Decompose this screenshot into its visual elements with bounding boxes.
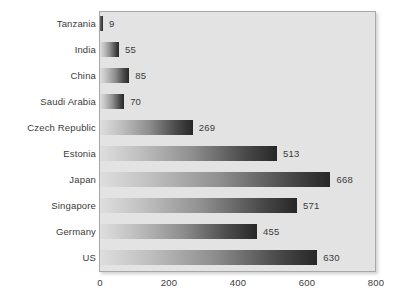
bar-chart: Tanzania9India55China85Saudi Arabia70Cze… bbox=[0, 0, 407, 301]
bar-india bbox=[100, 42, 119, 57]
x-tick-label-400: 400 bbox=[230, 277, 246, 288]
value-label-china: 85 bbox=[135, 63, 146, 89]
chart-row: India55 bbox=[0, 37, 407, 63]
value-label-japan: 668 bbox=[336, 167, 352, 193]
category-label-japan: Japan bbox=[0, 167, 96, 193]
bar-track: 85 bbox=[100, 63, 407, 89]
bar-track: 513 bbox=[100, 141, 407, 167]
chart-row: Czech Republic269 bbox=[0, 115, 407, 141]
chart-row: US630 bbox=[0, 245, 407, 271]
value-label-saudi-arabia: 70 bbox=[130, 89, 141, 115]
chart-row: Tanzania9 bbox=[0, 11, 407, 37]
category-label-czech-republic: Czech Republic bbox=[0, 115, 96, 141]
bar-singapore bbox=[100, 198, 297, 213]
bar-track: 630 bbox=[100, 245, 407, 271]
x-tick-label-600: 600 bbox=[299, 277, 315, 288]
chart-row: Japan668 bbox=[0, 167, 407, 193]
value-label-tanzania: 9 bbox=[109, 11, 114, 37]
value-label-india: 55 bbox=[125, 37, 136, 63]
x-axis: 0200400600800 bbox=[0, 273, 407, 301]
category-label-china: China bbox=[0, 63, 96, 89]
value-label-singapore: 571 bbox=[303, 193, 319, 219]
category-label-us: US bbox=[0, 245, 96, 271]
value-label-czech-republic: 269 bbox=[199, 115, 215, 141]
bar-germany bbox=[100, 224, 257, 239]
bar-track: 55 bbox=[100, 37, 407, 63]
bar-track: 70 bbox=[100, 89, 407, 115]
category-label-tanzania: Tanzania bbox=[0, 11, 96, 37]
bar-estonia bbox=[100, 146, 277, 161]
chart-row: Estonia513 bbox=[0, 141, 407, 167]
bar-japan bbox=[100, 172, 330, 187]
x-tick-label-0: 0 bbox=[97, 277, 102, 288]
bar-china bbox=[100, 68, 129, 83]
bar-track: 9 bbox=[100, 11, 407, 37]
x-tick-label-200: 200 bbox=[161, 277, 177, 288]
bar-tanzania bbox=[100, 16, 103, 31]
bar-track: 571 bbox=[100, 193, 407, 219]
chart-row: Germany455 bbox=[0, 219, 407, 245]
category-label-estonia: Estonia bbox=[0, 141, 96, 167]
value-label-estonia: 513 bbox=[283, 141, 299, 167]
category-label-singapore: Singapore bbox=[0, 193, 96, 219]
bar-us bbox=[100, 250, 317, 265]
bar-saudi-arabia bbox=[100, 94, 124, 109]
bar-czech-republic bbox=[100, 120, 193, 135]
chart-row: China85 bbox=[0, 63, 407, 89]
chart-row: Saudi Arabia70 bbox=[0, 89, 407, 115]
value-label-germany: 455 bbox=[263, 219, 279, 245]
category-label-germany: Germany bbox=[0, 219, 96, 245]
bar-track: 455 bbox=[100, 219, 407, 245]
chart-row: Singapore571 bbox=[0, 193, 407, 219]
bar-track: 269 bbox=[100, 115, 407, 141]
bar-track: 668 bbox=[100, 167, 407, 193]
category-label-india: India bbox=[0, 37, 96, 63]
x-tick-label-800: 800 bbox=[368, 277, 384, 288]
category-label-saudi-arabia: Saudi Arabia bbox=[0, 89, 96, 115]
value-label-us: 630 bbox=[323, 245, 339, 271]
